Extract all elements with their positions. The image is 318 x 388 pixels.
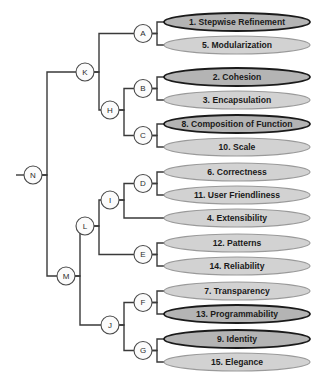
leaf-node[interactable]: 6. Correctness bbox=[164, 163, 310, 181]
leaf-label: 3. Encapsulation bbox=[203, 95, 271, 105]
leaf-node[interactable]: 1. Stepwise Refinement bbox=[164, 13, 310, 31]
cluster-node-C[interactable]: C bbox=[134, 127, 152, 145]
leaf-node[interactable]: 4. Extensibility bbox=[164, 209, 310, 227]
leaf-label: 14. Reliability bbox=[210, 261, 265, 271]
tree-link-G-L14 bbox=[152, 339, 166, 351]
cluster-node-K[interactable]: K bbox=[76, 63, 94, 81]
cluster-node-label: G bbox=[140, 346, 146, 355]
tree-link-I-D bbox=[119, 184, 134, 201]
cluster-node-label: I bbox=[109, 196, 111, 205]
leaf-label: 6. Correctness bbox=[207, 167, 267, 177]
cluster-node-label: L bbox=[83, 222, 88, 231]
tree-link-M-J bbox=[75, 276, 101, 325]
tree-link-I-L9 bbox=[119, 200, 166, 218]
leaf-label: 8. Composition of Function bbox=[181, 119, 292, 129]
cluster-node-label: B bbox=[140, 84, 145, 93]
leaf-label: 4. Extensibility bbox=[207, 213, 267, 223]
tree-link-B-L4 bbox=[152, 89, 166, 101]
leaf-node[interactable]: 12. Patterns bbox=[164, 234, 310, 252]
leaf-node[interactable]: 15. Elegance bbox=[164, 353, 310, 371]
tree-link-A-L1 bbox=[152, 22, 166, 34]
tree-link-H-B bbox=[119, 89, 134, 111]
cluster-node-N[interactable]: N bbox=[24, 166, 42, 184]
leaf-label: 13. Programmability bbox=[196, 309, 278, 319]
cluster-node-label: M bbox=[63, 272, 70, 281]
leaf-node[interactable]: 11. User Friendliness bbox=[164, 186, 310, 204]
tree-link-D-L7 bbox=[152, 172, 166, 184]
cluster-node-label: H bbox=[107, 106, 113, 115]
leaf-node[interactable]: 14. Reliability bbox=[164, 257, 310, 275]
tree-link-K-A bbox=[94, 34, 134, 73]
dendrogram-canvas: 1. Stepwise Refinement5. Modularization2… bbox=[0, 0, 318, 388]
leaf-node[interactable]: 10. Scale bbox=[164, 138, 310, 156]
leaf-node[interactable]: 3. Encapsulation bbox=[164, 91, 310, 109]
cluster-node-label: J bbox=[108, 321, 112, 330]
cluster-node-I[interactable]: I bbox=[101, 191, 119, 209]
leaf-label: 12. Patterns bbox=[213, 238, 262, 248]
leaf-label: 2. Cohesion bbox=[213, 72, 262, 82]
tree-link-E-L10 bbox=[152, 243, 166, 255]
tree-link-L-E bbox=[94, 226, 134, 255]
leaf-label: 11. User Friendliness bbox=[194, 190, 280, 200]
cluster-node-label: K bbox=[82, 68, 88, 77]
tree-link-J-G bbox=[119, 325, 134, 351]
leaf-label: 7. Transparency bbox=[204, 286, 270, 296]
cluster-node-label: E bbox=[140, 250, 145, 259]
cluster-node-label: A bbox=[140, 29, 146, 38]
tree-link-L-I bbox=[94, 200, 101, 226]
leaf-node[interactable]: 2. Cohesion bbox=[164, 68, 310, 86]
leaf-node[interactable]: 8. Composition of Function bbox=[164, 115, 310, 133]
tree-link-C-L5 bbox=[152, 124, 166, 136]
cluster-node-label: D bbox=[140, 179, 146, 188]
tree-link-F-L13 bbox=[152, 303, 166, 315]
nodes-layer: ABCDEFGHIJKLMN bbox=[24, 25, 152, 360]
cluster-node-F[interactable]: F bbox=[134, 294, 152, 312]
tree-link-H-C bbox=[119, 110, 134, 136]
cluster-node-J[interactable]: J bbox=[101, 316, 119, 334]
tree-link-D-L8 bbox=[152, 184, 166, 196]
leaf-label: 1. Stepwise Refinement bbox=[189, 17, 285, 27]
tree-link-B-L3 bbox=[152, 77, 166, 89]
tree-link-A-L2 bbox=[152, 34, 166, 46]
cluster-node-A[interactable]: A bbox=[134, 25, 152, 43]
cluster-node-G[interactable]: G bbox=[134, 342, 152, 360]
cluster-node-B[interactable]: B bbox=[134, 80, 152, 98]
leaf-node[interactable]: 13. Programmability bbox=[164, 305, 310, 323]
cluster-node-label: C bbox=[140, 131, 146, 140]
leaf-label: 9. Identity bbox=[217, 334, 257, 344]
dendrogram-svg: 1. Stepwise Refinement5. Modularization2… bbox=[0, 0, 318, 388]
tree-link-E-L11 bbox=[152, 255, 166, 267]
leaves-layer: 1. Stepwise Refinement5. Modularization2… bbox=[164, 13, 310, 371]
tree-link-N-M bbox=[42, 175, 57, 276]
cluster-node-L[interactable]: L bbox=[76, 217, 94, 235]
cluster-node-label: F bbox=[141, 298, 146, 307]
cluster-node-E[interactable]: E bbox=[134, 246, 152, 264]
tree-link-N-K bbox=[42, 72, 76, 175]
tree-link-K-H bbox=[94, 72, 101, 110]
tree-link-C-L6 bbox=[152, 136, 166, 148]
cluster-node-H[interactable]: H bbox=[101, 101, 119, 119]
tree-link-F-L12 bbox=[152, 291, 166, 303]
tree-link-J-F bbox=[119, 303, 134, 326]
tree-link-G-L15 bbox=[152, 351, 166, 363]
cluster-node-label: N bbox=[30, 171, 36, 180]
leaf-label: 10. Scale bbox=[219, 142, 256, 152]
leaf-node[interactable]: 5. Modularization bbox=[164, 36, 310, 54]
cluster-node-D[interactable]: D bbox=[134, 175, 152, 193]
leaf-label: 15. Elegance bbox=[211, 357, 263, 367]
leaf-node[interactable]: 7. Transparency bbox=[164, 282, 310, 300]
leaf-label: 5. Modularization bbox=[202, 40, 272, 50]
leaf-node[interactable]: 9. Identity bbox=[164, 330, 310, 348]
cluster-node-M[interactable]: M bbox=[57, 267, 75, 285]
